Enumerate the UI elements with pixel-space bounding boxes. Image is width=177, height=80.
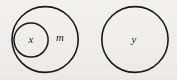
label-x: x	[28, 33, 34, 45]
label-m: m	[56, 31, 64, 43]
euler-diagram-figure: x m y	[0, 0, 177, 80]
diagram-canvas: x m y	[0, 0, 177, 80]
outer-left-circle	[12, 7, 78, 73]
label-y: y	[131, 33, 137, 45]
